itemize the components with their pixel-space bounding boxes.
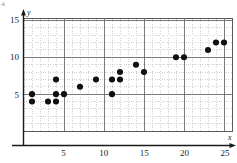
y-tick-label: 5 [4, 90, 19, 100]
data-point [221, 40, 227, 46]
data-point [77, 84, 83, 90]
y-tick-label: 10 [4, 52, 19, 62]
data-point [53, 98, 59, 104]
data-point [133, 62, 139, 68]
x-tick-label: 10 [99, 148, 108, 158]
data-point [53, 91, 59, 97]
figure-number-label: 4. [1, 0, 5, 8]
data-points-layer [24, 19, 232, 131]
data-point [141, 69, 147, 75]
data-point [109, 76, 115, 82]
scatter-plot-figure: 4. 51015202551015 x y [0, 0, 237, 163]
data-point [53, 76, 59, 82]
data-point [117, 69, 123, 75]
y-tick-label: 15 [4, 15, 19, 25]
data-point [205, 47, 211, 53]
data-point [45, 98, 51, 104]
data-point [93, 76, 99, 82]
x-tick-label: 15 [140, 148, 149, 158]
x-tick-label: 5 [61, 148, 66, 158]
data-point [109, 91, 115, 97]
data-point [29, 98, 35, 104]
data-point [181, 54, 187, 60]
data-point [117, 76, 123, 82]
data-point [173, 54, 179, 60]
x-axis-label: x [228, 133, 232, 142]
x-tick-label: 25 [220, 148, 229, 158]
data-point [61, 91, 67, 97]
y-axis-label: y [27, 8, 31, 17]
plot-area [23, 18, 233, 132]
data-point [213, 40, 219, 46]
data-point [29, 91, 35, 97]
x-tick-label: 20 [180, 148, 189, 158]
